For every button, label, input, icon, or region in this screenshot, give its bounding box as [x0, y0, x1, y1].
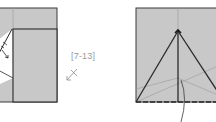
step-arrow-icon	[67, 69, 77, 80]
step-reference-label: [7-13]	[71, 51, 95, 61]
origami-diagram	[0, 0, 216, 122]
left-inner-flap	[13, 29, 57, 102]
left-panel	[0, 8, 57, 102]
right-paper-square	[136, 8, 216, 102]
right-panel	[136, 8, 216, 122]
